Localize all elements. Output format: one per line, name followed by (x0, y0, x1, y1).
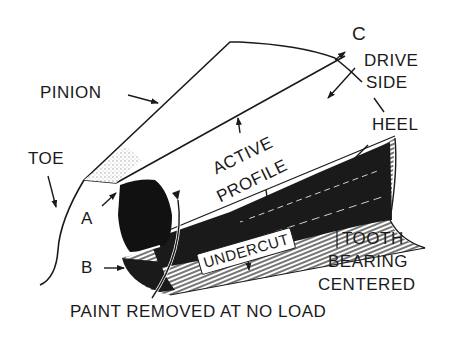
label-tooth-bearing-1: TOOTH (342, 230, 404, 247)
label-heel: HEEL (372, 116, 418, 133)
label-toe: TOE (28, 150, 64, 167)
pinion-tooth-diagram: PINION TOE C DRIVE SIDE HEEL ACTIVE PROF… (0, 0, 465, 345)
caption-paint-removed: PAINT REMOVED AT NO LOAD (70, 303, 326, 320)
label-c: C (352, 24, 366, 43)
label-drive-side-2: SIDE (366, 74, 408, 91)
label-drive-side-1: DRIVE (364, 52, 418, 69)
label-tooth-bearing-2: BEARING (328, 253, 408, 270)
label-a: A (81, 210, 93, 227)
label-b: B (81, 259, 93, 276)
label-tooth-bearing-3: CENTERED (318, 276, 416, 293)
label-pinion: PINION (40, 84, 102, 101)
